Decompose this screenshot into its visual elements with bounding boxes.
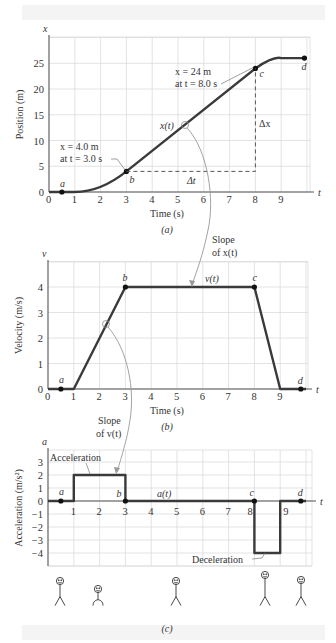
y-tick: 5 [39, 161, 44, 172]
slope-x-line1: Slope [212, 234, 235, 245]
x-of-t-label: x(t) [159, 120, 175, 132]
slope-x-line2: of x(t) [212, 247, 237, 259]
stick-figure [171, 577, 181, 605]
x-tick: 4 [148, 506, 154, 517]
slope-v-line1: Slope [98, 415, 121, 426]
svg-text:b: b [129, 174, 134, 185]
point-a [59, 189, 64, 194]
svg-text:a: a [59, 486, 64, 497]
x-tick: 2 [97, 391, 102, 402]
y-tick: 25 [34, 58, 45, 69]
x-tick: 7 [226, 391, 231, 402]
point-c [252, 284, 257, 289]
x-tick: 5 [174, 506, 179, 517]
x-tick: 0 [46, 194, 51, 205]
caption: (c) [161, 623, 173, 635]
y-tick: −2 [32, 522, 43, 533]
x-axis-label: Time (s) [150, 405, 184, 417]
y-tick: 2 [38, 470, 43, 481]
x-tick: 5 [175, 194, 180, 205]
y-tick: 10 [34, 136, 45, 147]
point-b [123, 284, 128, 289]
x-tick: 6 [201, 194, 206, 205]
svg-text:b: b [122, 272, 127, 283]
point-b [123, 498, 128, 503]
y-axis-label: Velocity (m/s) [13, 297, 25, 354]
t-axis-symbol: t [320, 496, 323, 507]
delta-x-label: Δx [259, 118, 270, 129]
point-d [302, 56, 307, 61]
y-tick: −3 [32, 535, 43, 546]
y-tick: −4 [32, 548, 44, 559]
x-tick: 1 [72, 194, 77, 205]
annotation-c-line2: at t = 8.0 s [175, 78, 217, 89]
chart-c: ta1234567893210−1−2−3−4Acceleration (m/s… [13, 436, 323, 635]
y-tick: 0 [38, 496, 43, 507]
kinematics-figure: tx01234567890510152025Time (s)Position (… [0, 0, 336, 643]
x-tick: 4 [148, 391, 154, 402]
point-d [298, 386, 303, 391]
y-axis-label: Acceleration (m/s²) [13, 469, 25, 547]
x-tick: 2 [98, 194, 103, 205]
x-tick: 9 [283, 506, 288, 517]
svg-text:d: d [298, 487, 304, 498]
stick-figure [296, 576, 306, 605]
svg-text:c: c [252, 272, 257, 283]
x-tick: 3 [122, 391, 127, 402]
point-a [58, 386, 63, 391]
svg-text:d: d [301, 61, 307, 72]
y-tick: 3 [38, 457, 43, 468]
y-axis-symbol: x [42, 23, 48, 34]
chart-b: tv012345678901234Time (s)Velocity (m/s)(… [13, 248, 319, 433]
svg-text:a: a [59, 374, 64, 385]
x-tick: 3 [122, 506, 127, 517]
y-axis-label: Position (m) [14, 90, 26, 140]
y-tick: −1 [32, 509, 43, 520]
y-tick: 0 [38, 384, 43, 395]
x-tick: 2 [97, 506, 102, 517]
x-tick: 8 [251, 391, 256, 402]
point-c [252, 498, 257, 503]
x-tick: 7 [226, 506, 231, 517]
v-of-t-label: v(t) [205, 273, 220, 285]
x-axis-label: Time (s) [150, 208, 184, 220]
annotation-b-line1: x = 4.0 m [60, 141, 99, 152]
y-tick: 4 [38, 282, 44, 293]
y-tick: 20 [34, 84, 45, 95]
x-tick: 1 [71, 391, 76, 402]
x-tick: 9 [277, 391, 282, 402]
deceleration-label: Deceleration [192, 554, 243, 565]
x-tick: 8 [252, 194, 257, 205]
stick-figure [93, 585, 103, 605]
y-axis-symbol: a [42, 436, 47, 447]
a-of-t-label: a(t) [157, 488, 172, 500]
slope-v-line2: of v(t) [96, 428, 121, 440]
grid-b [48, 262, 308, 390]
x-tick: 4 [149, 194, 155, 205]
t-axis-symbol: t [316, 384, 319, 395]
stick-figure [55, 577, 65, 605]
svg-text:a: a [60, 178, 65, 189]
x-tick: 7 [227, 194, 232, 205]
x-tick: 8 [247, 506, 252, 517]
y-tick: 1 [38, 359, 43, 370]
caption: (b) [161, 421, 173, 433]
x-tick: 0 [45, 391, 50, 402]
y-axis-symbol: v [42, 248, 47, 259]
delta-t-label: Δt [186, 175, 196, 186]
x-tick: 6 [200, 506, 205, 517]
y-tick: 0 [39, 187, 44, 198]
caption: (a) [161, 224, 173, 236]
x-tick: 5 [174, 391, 179, 402]
x-tick: 3 [123, 194, 128, 205]
point-d [298, 498, 303, 503]
y-tick: 3 [38, 308, 43, 319]
svg-text:c: c [249, 487, 254, 498]
y-tick: 15 [34, 110, 45, 121]
annotation-c-line1: x = 24 m [175, 66, 211, 77]
x-tick: 9 [278, 194, 283, 205]
svg-text:d: d [298, 375, 304, 386]
stick-figure [260, 571, 270, 605]
t-axis-symbol: t [318, 187, 321, 198]
point-a [58, 498, 63, 503]
